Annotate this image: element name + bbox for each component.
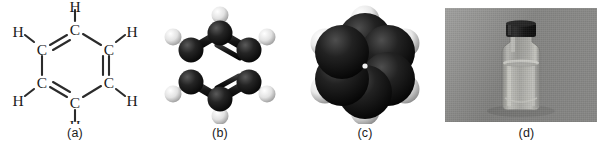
atom-label-carbon-top: C (70, 21, 80, 38)
benzene-bottle-photo (445, 8, 597, 122)
carbon-atom-lower-right (237, 70, 262, 95)
panel-caption-d: (d) (440, 126, 613, 140)
panel-caption-c: (c) (290, 126, 440, 140)
hydrogen-atom-lower-left (165, 86, 182, 103)
ch-bond-lower-right (116, 89, 125, 96)
panel-sample-photograph: (d) (440, 0, 613, 154)
atom-labels: C C C C C C H H H H H H (12, 2, 137, 124)
ring-center-highlight (362, 63, 367, 68)
panel-structural-formula: C C C C C C H H H H H H (a) (0, 0, 150, 154)
ring-bond-3 (83, 86, 101, 97)
atom-label-hydrogen-bottom: H (69, 117, 80, 125)
carbon-atom-top (208, 21, 233, 46)
atom-label-hydrogen-lower-right: H (126, 92, 137, 109)
hydrogen-atom-upper-left (165, 29, 182, 46)
carbon-atom-bottom (208, 87, 233, 112)
panel-ball-and-stick-model: (b) (150, 0, 290, 154)
hydrogen-atom-upper-right (259, 29, 276, 46)
benzene-space-filling-svg (292, 4, 438, 124)
atom-label-carbon-lower-left: C (37, 74, 47, 91)
panel-caption-a: (a) (0, 126, 150, 140)
double-bond-bars (201, 45, 240, 88)
atom-label-carbon-lower-right: C (104, 74, 114, 91)
hydrogen-atom-lower-right (259, 86, 276, 103)
atom-label-hydrogen-lower-left: H (12, 92, 23, 109)
atom-label-hydrogen-upper-left: H (12, 23, 23, 40)
atom-label-carbon-upper-left: C (37, 41, 47, 58)
carbon-sphere-upper-left (315, 25, 369, 79)
carbon-atom-lower-left (179, 70, 204, 95)
benzene-ball-and-stick-svg (154, 4, 286, 124)
atom-label-hydrogen-top: H (69, 2, 80, 15)
panel-caption-b: (b) (150, 126, 290, 140)
panel-space-filling-model: (c) (290, 0, 440, 154)
ch-bond-upper-left (25, 35, 34, 42)
ch-bond-upper-right (116, 35, 125, 42)
benzene-structural-formula-svg: C C C C C C H H H H H H (8, 2, 142, 124)
photo-grain-overlay (445, 8, 597, 122)
atom-label-carbon-upper-right: C (104, 41, 114, 58)
atom-label-hydrogen-upper-right: H (126, 23, 137, 40)
benzene-representations-figure: C C C C C C H H H H H H (a) (0, 0, 613, 154)
ch-bond-lower-left (25, 89, 34, 96)
carbon-atom-upper-left (179, 38, 204, 63)
ring-bond-1 (83, 34, 101, 45)
atom-label-carbon-bottom: C (70, 94, 80, 111)
carbon-atom-upper-right (237, 38, 262, 63)
